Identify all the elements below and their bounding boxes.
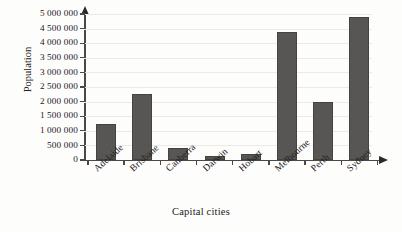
y-axis-tick-label: 4 000 000	[40, 38, 78, 47]
y-axis-tick-label: 2 500 000	[40, 82, 78, 91]
y-axis-tick-label: 4 500 000	[40, 24, 78, 33]
x-axis-tick	[341, 160, 342, 165]
x-axis-tick	[304, 160, 305, 165]
y-axis-tick-labels: 0500 0001 000 0001 500 0002 000 0002 500…	[0, 0, 78, 232]
x-axis-tick	[160, 160, 161, 165]
y-axis-tick	[80, 116, 85, 117]
y-axis-tick	[80, 159, 85, 160]
x-axis-tick	[87, 160, 88, 165]
y-axis-tick-label: 5 000 000	[40, 9, 78, 18]
y-axis-tick	[80, 43, 85, 44]
y-axis-tick-label: 0	[73, 155, 78, 164]
y-axis-tick	[80, 72, 85, 73]
x-axis-tick	[377, 160, 378, 165]
y-axis-tick-label: 500 000	[47, 141, 78, 150]
x-axis-title: Capital cities	[0, 206, 402, 217]
bar	[349, 17, 369, 160]
x-axis-tick	[196, 160, 197, 165]
y-axis-tick	[80, 101, 85, 102]
y-axis-title: Population	[22, 25, 33, 115]
y-axis-tick	[80, 57, 85, 58]
x-axis-tick	[268, 160, 269, 165]
x-axis-tick	[123, 160, 124, 165]
y-axis-tick	[80, 86, 85, 87]
y-axis-tick	[80, 145, 85, 146]
y-axis-tick-label: 3 000 000	[40, 68, 78, 77]
y-axis-tick	[80, 130, 85, 131]
y-axis-tick-label: 3 500 000	[40, 53, 78, 62]
bar	[277, 32, 297, 160]
bar-series	[84, 14, 384, 160]
y-axis-tick-label: 1 500 000	[40, 111, 78, 120]
y-axis-tick	[80, 28, 85, 29]
bar-chart-figure: 0500 0001 000 0001 500 0002 000 0002 500…	[0, 0, 402, 232]
x-axis-tick	[232, 160, 233, 165]
y-axis-tick	[80, 13, 85, 14]
y-axis-tick-label: 2 000 000	[40, 97, 78, 106]
y-axis-tick-label: 1 000 000	[40, 126, 78, 135]
